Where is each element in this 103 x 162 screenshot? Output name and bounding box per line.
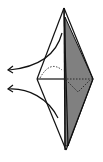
- origami-diagram: [0, 0, 103, 162]
- arrow-upper: [8, 33, 62, 73]
- shaded-flap: [65, 17, 93, 146]
